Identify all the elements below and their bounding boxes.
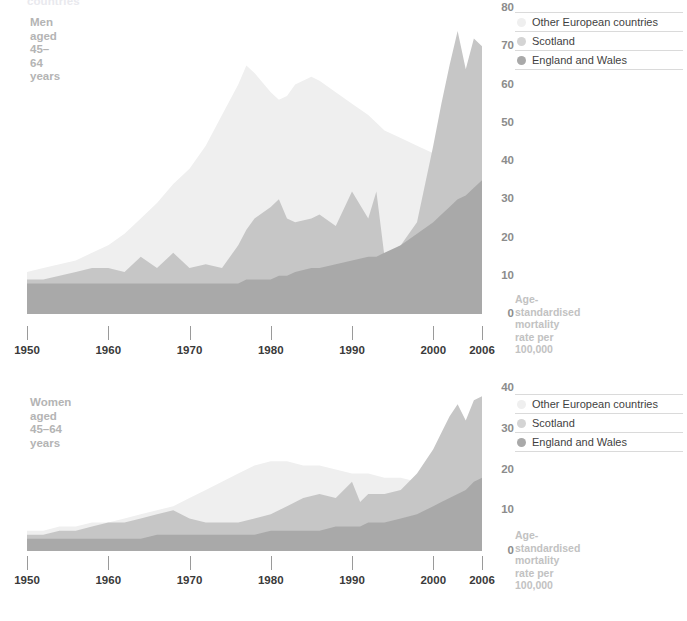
legend-women: Other European countries Scotland Englan… [515,394,683,452]
x-tick-label: 1970 [177,344,203,356]
y-tick-label: 70 [488,39,514,51]
x-tick-mark [190,326,191,340]
legend-label: England and Wales [532,436,627,448]
y-tick-label: 30 [488,192,514,204]
legend-item[interactable]: Other European countries [515,12,683,32]
legend-label: Scotland [532,417,575,429]
legend-label: Other European countries [532,398,658,410]
legend-item[interactable]: Scotland [515,32,683,51]
legend-label: Other European countries [532,16,658,28]
x-tick-label: 1990 [339,574,365,586]
y-tick-label: 10 [488,269,514,281]
legend-item[interactable]: Other European countries [515,394,683,414]
x-tick-mark [27,556,28,570]
legend-label: England and Wales [532,54,627,66]
x-tick-label: 1980 [258,574,284,586]
axis-caption-men: Age-standardised mortality rate per 100,… [515,293,580,356]
y-tick-label: 50 [488,116,514,128]
y-tick-label: 0 [488,544,514,556]
clipped-header-text: countries [27,0,80,7]
x-tick-label: 1990 [339,344,365,356]
legend-swatch-other-european-icon [517,18,526,27]
x-tick-label: 2006 [469,574,495,586]
x-tick-label: 2000 [420,574,446,586]
y-tick-label: 80 [488,1,514,13]
y-tick-label: 20 [488,463,514,475]
y-tick-label: 40 [488,381,514,393]
legend-item[interactable]: England and Wales [515,433,683,452]
x-tick-mark [190,556,191,570]
y-tick-label: 40 [488,154,514,166]
x-tick-mark [433,556,434,570]
x-tick-mark [108,326,109,340]
x-tick-label: 1980 [258,344,284,356]
y-tick-label: 10 [488,503,514,515]
x-tick-mark [482,326,483,340]
x-tick-label: 1960 [95,574,121,586]
x-tick-mark [27,326,28,340]
y-tick-label: 30 [488,422,514,434]
legend-item[interactable]: England and Wales [515,51,683,70]
x-tick-label: 1960 [95,344,121,356]
panel-label-women: Women aged 45–64 years [30,396,71,450]
x-tick-mark [108,556,109,570]
legend-swatch-scotland-icon [517,37,526,46]
y-tick-label: 20 [488,231,514,243]
panel-label-men: Men aged 45–64 years [30,16,60,84]
x-tick-mark [271,326,272,340]
legend-swatch-england-wales-icon [517,438,526,447]
legend-swatch-scotland-icon [517,419,526,428]
legend-swatch-england-wales-icon [517,56,526,65]
x-tick-mark [482,556,483,570]
area-chart-men [27,8,482,314]
x-tick-label: 1950 [14,574,40,586]
legend-item[interactable]: Scotland [515,414,683,433]
x-tick-label: 1970 [177,574,203,586]
x-tick-mark [271,556,272,570]
area-chart-women [27,388,482,551]
x-tick-mark [352,326,353,340]
legend-swatch-other-european-icon [517,400,526,409]
x-tick-mark [352,556,353,570]
x-tick-mark [433,326,434,340]
x-tick-label: 1950 [14,344,40,356]
x-axis-men: 1950196019701980199020002006 [27,326,482,362]
y-tick-label: 60 [488,78,514,90]
y-tick-label: 0 [488,307,514,319]
legend-men: Other European countries Scotland Englan… [515,12,683,70]
x-tick-label: 2000 [420,344,446,356]
legend-label: Scotland [532,35,575,47]
plot-area-men [27,8,482,314]
x-axis-women: 1950196019701980199020002006 [27,556,482,592]
x-tick-label: 2006 [469,344,495,356]
axis-caption-women: Age-standardised mortality rate per 100,… [515,529,580,592]
plot-area-women [27,388,482,551]
